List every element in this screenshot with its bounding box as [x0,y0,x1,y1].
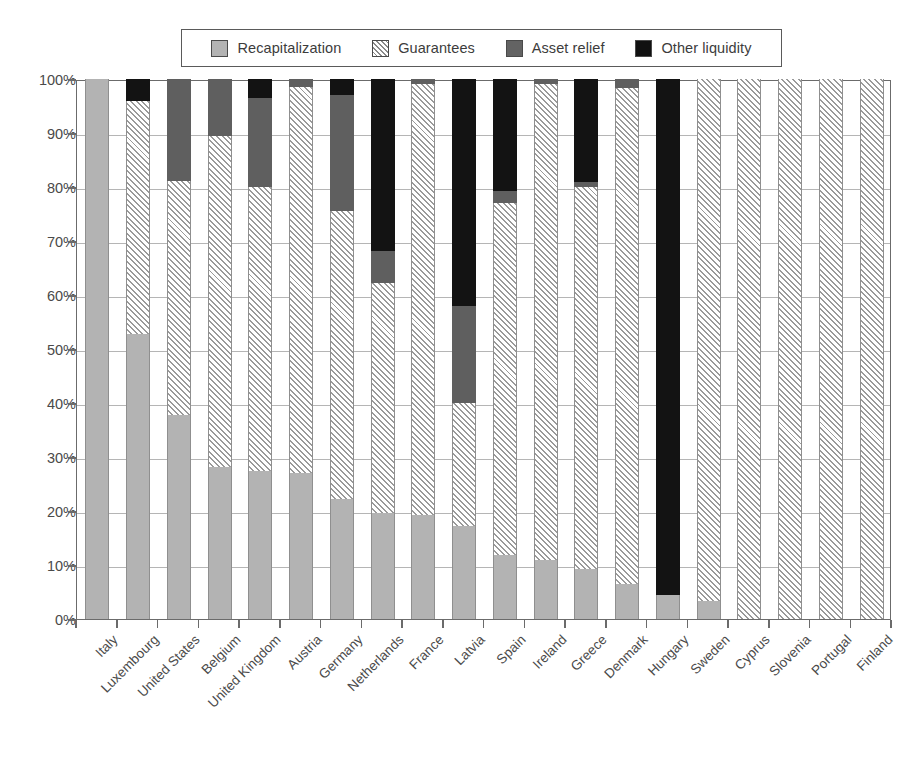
stacked-bar[interactable] [248,81,272,619]
stacked-bar[interactable] [85,81,109,619]
bar-segment-recap [371,513,395,619]
stacked-bar[interactable] [819,81,843,619]
bar-column[interactable] [729,81,770,619]
chart-legend: Recapitalization Guarantees Asset relief… [181,29,782,67]
bar-segment-asset [615,79,639,88]
stacked-bar[interactable] [371,81,395,619]
bar-segment-other [574,79,598,182]
bar-column[interactable] [851,81,892,619]
stacked-bar[interactable] [493,81,517,619]
stacked-bar[interactable] [656,81,680,619]
bar-column[interactable] [485,81,526,619]
stacked-bar[interactable] [126,81,150,619]
bar-segment-guarantees [534,84,558,559]
x-axis-tick-mark [238,620,240,628]
bar-segment-other [330,79,354,95]
bar-segment-guarantees [126,101,150,334]
bar-segment-other [371,79,395,251]
x-axis-tick-mark [687,620,689,628]
bar-column[interactable] [199,81,240,619]
bar-column[interactable] [444,81,485,619]
bar-segment-asset [452,306,476,403]
bar-segment-recap [493,555,517,619]
bars-layer [77,81,890,619]
bar-segment-guarantees [371,283,395,514]
x-axis: ItalyLuxembourgUnited StatesBelgiumUnite… [0,628,909,758]
bar-column[interactable] [525,81,566,619]
x-axis-tick-mark [401,620,403,628]
bar-column[interactable] [688,81,729,619]
legend-item-other-liquidity: Other liquidity [635,40,751,57]
x-axis-tick-mark [809,620,811,628]
stacked-bar[interactable] [615,81,639,619]
bar-column[interactable] [607,81,648,619]
x-axis-tick-mark [157,620,159,628]
bar-segment-guarantees [697,79,721,601]
stacked-bar[interactable] [167,81,191,619]
bar-segment-recap [411,515,435,619]
y-axis-tick-mark [68,511,76,513]
bar-column[interactable] [403,81,444,619]
bar-segment-recap [574,569,598,619]
x-axis-tick-mark [279,620,281,628]
bar-segment-recap [534,560,558,619]
bar-column[interactable] [118,81,159,619]
bar-segment-recap [248,471,272,619]
bar-column[interactable] [811,81,852,619]
legend-item-recapitalization: Recapitalization [211,40,341,57]
bar-segment-other [248,79,272,98]
x-axis-tick-mark [361,620,363,628]
bar-column[interactable] [648,81,689,619]
stacked-bar[interactable] [860,81,884,619]
bar-segment-guarantees [737,79,761,619]
bar-segment-other [452,79,476,306]
bar-segment-recap [615,584,639,619]
bar-segment-guarantees [819,79,843,619]
x-axis-tick-mark [605,620,607,628]
bar-column[interactable] [362,81,403,619]
bar-column[interactable] [281,81,322,619]
bar-segment-recap [208,467,232,619]
y-axis-tick-mark [68,349,76,351]
y-axis-tick-mark [68,241,76,243]
stacked-bar[interactable] [452,81,476,619]
stacked-bar[interactable] [534,81,558,619]
y-axis-tick-mark [68,403,76,405]
x-axis-tick-mark [768,620,770,628]
bar-segment-recap [85,79,109,619]
stacked-bar[interactable] [574,81,598,619]
stacked-bar[interactable] [778,81,802,619]
bar-segment-other [493,79,517,191]
bar-column[interactable] [77,81,118,619]
asset-relief-swatch-icon [506,40,523,57]
stacked-bar[interactable] [737,81,761,619]
legend-label-asset-relief: Asset relief [532,40,605,56]
guarantees-swatch-icon [372,40,389,57]
bar-segment-other [126,79,150,101]
bar-segment-guarantees [860,79,884,619]
stacked-bar[interactable] [411,81,435,619]
stacked-bar[interactable] [289,81,313,619]
y-axis-tick-mark [68,187,76,189]
stacked-bar[interactable] [208,81,232,619]
bar-column[interactable] [770,81,811,619]
x-axis-tick-mark [890,620,892,628]
stacked-bar-chart: Recapitalization Guarantees Asset relief… [0,0,909,766]
x-axis-tick-mark [524,620,526,628]
x-axis-tick-mark [198,620,200,628]
x-axis-tick-mark [646,620,648,628]
bar-column[interactable] [322,81,363,619]
bar-column[interactable] [159,81,200,619]
bar-segment-guarantees [330,211,354,499]
bar-segment-recap [330,499,354,619]
bar-segment-asset [248,98,272,187]
bar-segment-recap [452,526,476,619]
bar-segment-guarantees [615,88,639,584]
bar-column[interactable] [566,81,607,619]
stacked-bar[interactable] [697,81,721,619]
bar-column[interactable] [240,81,281,619]
stacked-bar[interactable] [330,81,354,619]
x-axis-tick-mark [75,620,77,628]
x-axis-tick-mark [850,620,852,628]
bar-segment-recap [289,473,313,619]
